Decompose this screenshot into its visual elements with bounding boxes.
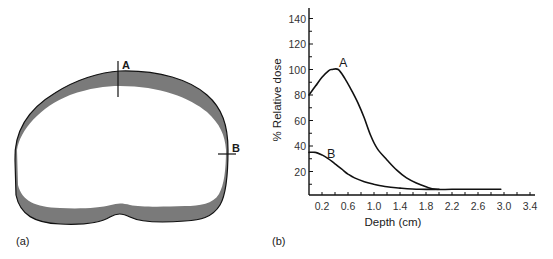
tissue-band [15,71,228,224]
panel-a-diagram: A B (a) [15,59,240,247]
figure: A B (a) 0.20.61.01.41.82.22.63.03.420406… [0,0,553,259]
axes [309,8,535,195]
x-tick-label: 2.2 [445,200,460,212]
x-tick-label: 0.2 [315,200,330,212]
x-tick-label: 1.4 [393,200,408,212]
y-tick-label: 40 [294,140,306,152]
panel-b-label: (b) [272,235,285,247]
y-tick-label: 60 [294,115,306,127]
y-tick-label: 20 [294,166,306,178]
panel-a-label: (a) [16,235,29,247]
x-tick-label: 1.0 [367,200,382,212]
series-b-label: B [327,147,335,161]
y-tick-label: 120 [288,38,306,50]
marker-b-label: B [232,142,240,154]
series-a-label: A [339,56,348,70]
y-tick-label: 80 [294,89,306,101]
x-axis-title: Depth (cm) [365,216,422,228]
series-lines [309,69,501,190]
y-tick-label: 100 [288,64,306,76]
marker-a-label: A [122,59,130,71]
y-axis-title: % Relative dose [271,58,283,141]
series-line-a [309,69,501,190]
x-tick-label: 3.0 [497,200,512,212]
panel-b-chart: 0.20.61.01.41.82.22.63.03.42040608010012… [271,8,537,247]
x-tick-label: 2.6 [471,200,486,212]
x-tick-label: 3.4 [523,200,538,212]
x-tick-label: 0.6 [341,200,356,212]
x-tick-label: 1.8 [419,200,434,212]
y-tick-label: 140 [288,13,306,25]
